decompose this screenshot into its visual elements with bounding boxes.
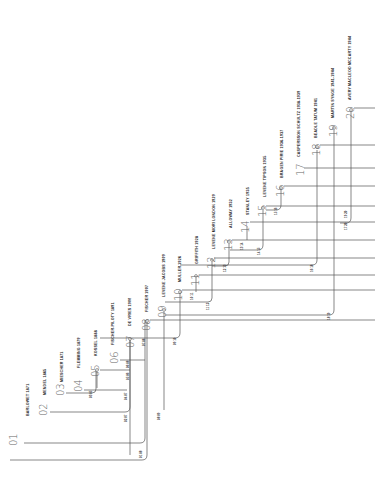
- edge-label: 05 06: [126, 372, 130, 380]
- node-number-17: 17: [295, 163, 306, 176]
- node-labels: BARLOWET 1871 MENDEL 1865 MIESCHER 1871 …: [26, 36, 352, 416]
- edge-label: 16 18: [310, 264, 314, 272]
- node-number-10: 10: [173, 288, 184, 301]
- dependency-diagram: 01 02 03 04 05 06 07 08 09 10 11 12 13 1…: [0, 0, 375, 484]
- node-label-18: BEADLE TATUM 1941: [314, 98, 318, 138]
- node-label-09: LEVENE JACOBS 1909: [162, 254, 166, 297]
- node-label-02: MENDEL 1865: [43, 369, 47, 395]
- node-label-19: MARTIN SYNGE 1941-1944: [331, 68, 335, 118]
- node-number-11: 11: [190, 273, 201, 286]
- edge-label: 18 19: [327, 312, 331, 320]
- node-number-04: 04: [73, 379, 84, 392]
- edge-label: 02 07: [124, 414, 128, 422]
- edge-label: 12 13: [223, 264, 227, 272]
- node-label-11: GRIFFITH 1928: [195, 236, 199, 264]
- node-label-08: FISCHER 1907: [145, 285, 149, 312]
- node-number-07: 07: [125, 335, 136, 348]
- edge-label: 04 07: [124, 392, 128, 400]
- edge-label: 03 05: [89, 390, 93, 398]
- node-label-05: KOSSEL 1888: [94, 330, 98, 356]
- edge-label: 13 14: [240, 242, 244, 250]
- node-number-03: 03: [55, 383, 66, 396]
- node-number-06: 06: [109, 351, 120, 364]
- node-label-01: BARLOWET 1871: [26, 384, 30, 416]
- node-number-15: 15: [257, 204, 268, 217]
- edge-label: 14 15: [257, 247, 261, 255]
- node-label-15: LEVENE TIPSON 1935: [263, 156, 267, 197]
- node-number-16: 16: [275, 184, 286, 197]
- node-number-20: 20: [345, 106, 356, 119]
- edge-labels: 01 08 02 07 03 05 04 07 05 06 06 08 07 0…: [89, 207, 348, 458]
- node-number-08: 08: [141, 318, 152, 331]
- node-label-10: MULLER 1926: [178, 256, 182, 282]
- node-label-16: BRAGEN PIRIE 1936-1937: [280, 129, 284, 178]
- node-number-13: 13: [223, 238, 234, 251]
- edge-label: 15 16: [274, 207, 278, 215]
- node-number-18: 18: [311, 143, 322, 156]
- edge-label: 11 12: [206, 302, 210, 310]
- node-numbers: 01 02 03 04 05 06 07 08 09 10 11 12 13 1…: [8, 106, 356, 446]
- node-number-05: 05: [90, 364, 101, 377]
- edge-label: 17 20: [344, 222, 348, 230]
- node-number-19: 19: [328, 124, 339, 137]
- edge-label: 08 09: [157, 412, 161, 420]
- node-label-14: STANLEY 1935: [246, 187, 250, 215]
- edge-label: 06 08: [126, 360, 130, 368]
- node-label-12: LEVENE MORI LONDON 1929: [212, 194, 216, 249]
- node-label-07: DE VRIES 1900: [128, 298, 132, 326]
- node-label-20: AVERY MACLEOD MCCARTY 1944: [348, 36, 352, 100]
- edge-label: 19 20: [344, 210, 348, 218]
- node-number-01: 01: [8, 433, 19, 446]
- edge-label: 07 08: [142, 338, 146, 346]
- node-number-14: 14: [240, 220, 251, 233]
- node-number-09: 09: [157, 305, 168, 318]
- edge-label: 10 11: [190, 292, 194, 300]
- node-label-13: ALLOWAY 1932: [229, 199, 233, 228]
- node-label-04: FLEMMING 1879: [77, 337, 81, 368]
- node-label-06: FISCHER-PILOTY 1891: [111, 302, 115, 345]
- edge-label: 01 08: [139, 450, 143, 458]
- node-number-02: 02: [38, 403, 49, 416]
- node-label-17: CASPERSSON SCHULTZ 1938-1939: [297, 91, 301, 157]
- node-number-12: 12: [206, 256, 217, 269]
- node-label-03: MIESCHER 1871: [60, 351, 64, 382]
- edge-label: 09 10: [173, 337, 177, 345]
